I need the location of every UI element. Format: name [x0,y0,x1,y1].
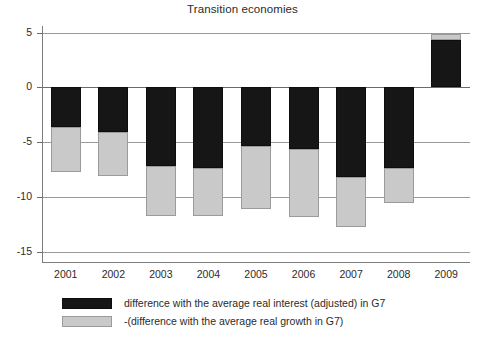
chart-container: Transition economies 50-5-10-15 20012002… [0,0,485,338]
bar-segment-growth[interactable] [193,168,223,216]
y-axis-line [42,26,43,263]
chart-title: Transition economies [0,3,485,15]
x-axis-label-2009: 2009 [421,268,471,280]
y-axis-label--10: -10 [0,190,32,202]
x-axis-label-2004: 2004 [183,268,233,280]
y-axis-label--5: -5 [0,135,32,147]
bar-segment-growth[interactable] [241,146,271,210]
x-axis-label-2005: 2005 [231,268,281,280]
bar-group[interactable] [146,26,176,263]
legend-label-interest: difference with the average real interes… [124,297,385,309]
bar-segment-interest[interactable] [336,87,366,177]
legend-label-growth: -(difference with the average real growt… [124,315,343,327]
bar-segment-growth[interactable] [98,132,128,176]
bar-group[interactable] [193,26,223,263]
bar-segment-growth[interactable] [51,127,81,172]
bar-segment-interest[interactable] [51,87,81,127]
bar-segment-interest[interactable] [431,40,461,87]
y-axis-label--15: -15 [0,245,32,257]
bar-segment-interest[interactable] [146,87,176,166]
bar-segment-growth[interactable] [431,34,461,41]
y-axis-label-0: 0 [0,80,32,92]
legend-swatch-black [62,298,112,309]
bar-group[interactable] [431,26,461,263]
y-axis-label-5: 5 [0,26,32,38]
bar-group[interactable] [336,26,366,263]
bar-group[interactable] [51,26,81,263]
bar-segment-growth[interactable] [146,166,176,215]
x-axis-label-2002: 2002 [88,268,138,280]
bar-segment-growth[interactable] [384,168,414,203]
bar-group[interactable] [289,26,319,263]
x-axis-label-2006: 2006 [279,268,329,280]
bar-group[interactable] [241,26,271,263]
bar-segment-interest[interactable] [193,87,223,167]
bar-segment-interest[interactable] [98,87,128,132]
x-axis-label-2003: 2003 [136,268,186,280]
x-axis-line [42,262,470,263]
legend-item-interest: difference with the average real interes… [62,296,385,310]
x-axis-label-2001: 2001 [41,268,91,280]
plot-area [42,26,470,263]
bar-group[interactable] [384,26,414,263]
bar-segment-interest[interactable] [384,87,414,167]
bar-segment-interest[interactable] [289,87,319,148]
legend-swatch-gray [62,316,112,327]
bar-segment-interest[interactable] [241,87,271,145]
bar-segment-growth[interactable] [289,149,319,217]
legend-item-growth: -(difference with the average real growt… [62,314,385,328]
bar-group[interactable] [98,26,128,263]
bar-segment-growth[interactable] [336,177,366,226]
x-axis-label-2008: 2008 [374,268,424,280]
chart-legend: difference with the average real interes… [62,296,385,332]
x-axis-label-2007: 2007 [326,268,376,280]
